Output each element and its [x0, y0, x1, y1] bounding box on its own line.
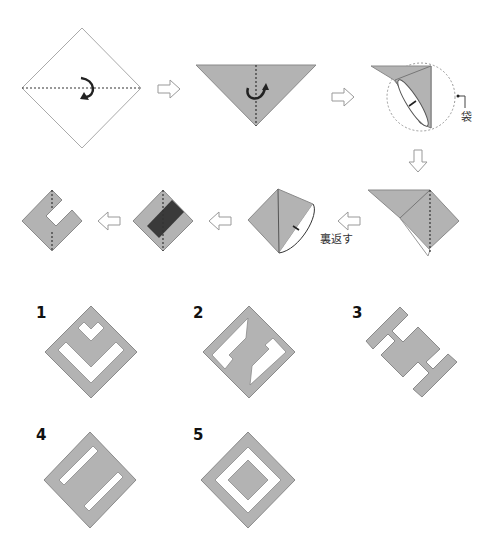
- option-number: 5: [193, 426, 203, 444]
- step-4-folded: [368, 190, 459, 256]
- arrow-left-icon: [338, 212, 360, 230]
- origami-diagram: 袋 裏返す 1 2: [0, 0, 480, 552]
- step-3-squash-fold: 袋: [371, 63, 472, 131]
- arrow-down-icon: [409, 150, 427, 172]
- option-number: 3: [352, 304, 362, 322]
- step-1-square-paper: [22, 28, 141, 148]
- step-7-cut-result: [22, 190, 82, 251]
- option-5[interactable]: 5: [193, 426, 295, 528]
- turn-over-label: 裏返す: [320, 232, 353, 246]
- arrow-left-icon: [209, 212, 231, 230]
- arrow-right-icon: [332, 88, 354, 106]
- step-5-kite: [248, 189, 314, 253]
- arrow-left-icon: [98, 212, 120, 230]
- option-4[interactable]: 4: [36, 426, 136, 528]
- option-1[interactable]: 1: [36, 304, 137, 398]
- arrow-right-icon: [158, 80, 180, 98]
- step-6-cut-band: [133, 190, 193, 251]
- option-number: 2: [193, 304, 203, 322]
- step-2-triangle: [196, 65, 316, 126]
- option-2[interactable]: 2: [193, 304, 295, 398]
- option-3[interactable]: 3: [352, 304, 457, 397]
- pocket-label: 袋: [461, 110, 472, 124]
- option-number: 4: [36, 426, 46, 444]
- option-number: 1: [36, 304, 46, 322]
